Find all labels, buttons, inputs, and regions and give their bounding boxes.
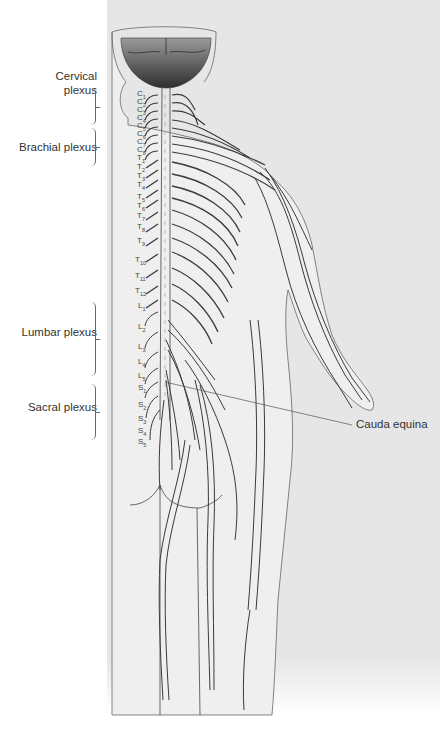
label-lumbar-plexus: Lumbar plexus	[22, 325, 97, 339]
segment-label: L2	[138, 323, 146, 334]
segment-label: T7	[137, 212, 145, 223]
segment-label: L1	[138, 302, 146, 313]
segment-label: S1	[138, 384, 146, 395]
label-cauda-equina: Cauda equina	[356, 418, 428, 430]
label-brachial-plexus: Brachial plexus	[19, 140, 97, 154]
segment-label: S4	[138, 427, 146, 438]
segment-label: S2	[138, 401, 146, 412]
spinal-nerves-diagram: Cervical plexus Brachial plexus Lumbar p…	[0, 0, 440, 755]
body-outline	[112, 27, 374, 715]
segment-label: T4	[137, 181, 145, 192]
segment-label: S5	[138, 438, 146, 449]
brace-brachial	[90, 128, 96, 166]
label-sacral-plexus: Sacral plexus	[28, 400, 97, 414]
segment-label: T10	[135, 256, 146, 267]
segment-label: S3	[138, 415, 146, 426]
brace-cervical	[90, 88, 96, 125]
segment-label: L5	[138, 372, 146, 383]
segment-label: T11	[135, 272, 146, 283]
brace-lumbar	[90, 302, 96, 376]
segment-label: T12	[135, 287, 146, 298]
segment-label: T8	[137, 223, 145, 234]
segment-label: L4	[138, 358, 146, 369]
segment-label: T9	[137, 237, 145, 248]
segment-label: L3	[138, 343, 146, 354]
brace-sacral	[90, 384, 96, 440]
brain-icon	[121, 38, 211, 88]
body-illustration	[0, 0, 440, 755]
